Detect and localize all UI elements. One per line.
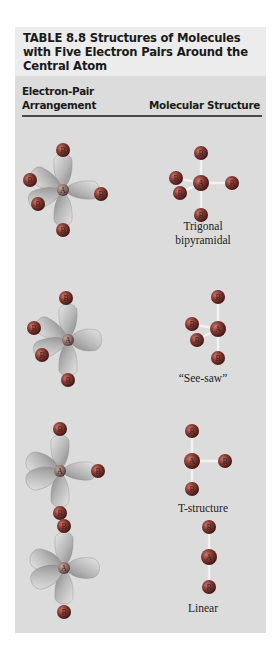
svg-text:B: B <box>61 608 66 617</box>
caption-line: bipyramidal <box>140 233 266 247</box>
svg-text:B: B <box>206 583 211 592</box>
svg-text:A: A <box>206 553 212 562</box>
svg-text:B: B <box>229 179 234 188</box>
svg-text:A: A <box>189 457 195 466</box>
svg-text:B: B <box>98 190 103 199</box>
caption-line: Trigonal <box>140 219 266 233</box>
svg-text:B: B <box>189 427 194 436</box>
svg-text:B: B <box>57 425 62 434</box>
svg-text:B: B <box>65 376 70 385</box>
table-8-8: TABLE 8.8 Structures of Molecules with F… <box>15 27 266 633</box>
svg-text:B: B <box>189 320 194 329</box>
svg-text:B: B <box>194 336 199 345</box>
row-2-electron-pair-arrangement: A B B B B <box>27 291 102 387</box>
svg-text:B: B <box>177 189 182 198</box>
svg-text:A: A <box>198 179 204 188</box>
svg-text:B: B <box>222 457 227 466</box>
svg-text:B: B <box>215 354 220 363</box>
svg-text:B: B <box>63 294 68 303</box>
svg-text:B: B <box>35 200 40 209</box>
svg-text:B: B <box>206 523 211 532</box>
svg-text:B: B <box>27 176 32 185</box>
structures-illustration: A B B B B B B B B A B B A <box>15 27 266 633</box>
svg-text:A: A <box>60 186 66 195</box>
svg-text:B: B <box>198 149 203 158</box>
row-1-electron-pair-arrangement: A B B B B B <box>23 143 108 237</box>
row-2-molecular-structure: B B B A B <box>185 290 226 365</box>
svg-text:B: B <box>189 485 194 494</box>
row-4-electron-pair-arrangement: A B B <box>27 519 99 619</box>
svg-text:A: A <box>61 564 67 573</box>
svg-text:B: B <box>57 509 62 518</box>
svg-text:A: A <box>215 325 221 334</box>
svg-text:B: B <box>39 351 44 360</box>
svg-text:B: B <box>60 146 65 155</box>
row-3-molecular-structure: B A B B <box>184 424 232 496</box>
caption-see-saw: “See-saw” <box>140 371 266 385</box>
svg-text:B: B <box>60 226 65 235</box>
row-1-molecular-structure: B B B A B B <box>169 146 239 222</box>
svg-text:B: B <box>173 174 178 183</box>
row-3-electron-pair-arrangement: A B B B <box>23 422 105 520</box>
svg-text:B: B <box>95 467 100 476</box>
svg-text:B: B <box>31 324 36 333</box>
svg-text:A: A <box>65 336 71 345</box>
row-4-molecular-structure: B A B <box>201 520 217 594</box>
caption-trigonal-bipyramidal: Trigonal bipyramidal <box>140 219 266 247</box>
svg-text:A: A <box>57 467 63 476</box>
svg-text:B: B <box>61 522 66 531</box>
svg-text:B: B <box>215 293 220 302</box>
caption-linear: Linear <box>140 601 266 615</box>
caption-t-structure: T-structure <box>140 501 266 515</box>
